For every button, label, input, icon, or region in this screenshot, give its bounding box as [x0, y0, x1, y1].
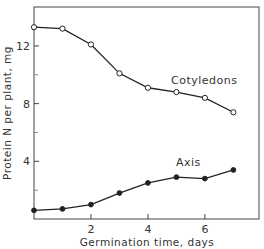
data-point	[89, 202, 94, 207]
x-tick-label: 6	[201, 223, 208, 236]
data-point	[231, 110, 236, 115]
y-axis-label: Protein N per plant, mg	[1, 46, 13, 180]
data-point	[202, 95, 207, 100]
y-axis-ticks: 4812	[16, 40, 39, 190]
data-point	[88, 42, 93, 47]
series-label-cotyledons: Cotyledons	[171, 74, 237, 87]
data-point	[202, 176, 207, 181]
data-point	[60, 26, 65, 31]
data-series	[31, 25, 236, 213]
plot-frame	[34, 7, 259, 219]
data-point	[32, 208, 37, 213]
x-axis-ticks: 246	[87, 214, 208, 236]
y-tick-label: 4	[23, 155, 30, 168]
data-point	[31, 25, 36, 30]
data-point	[146, 181, 151, 186]
y-tick-label: 8	[23, 98, 30, 111]
data-point	[117, 71, 122, 76]
data-point	[60, 207, 65, 212]
x-axis-label: Germination time, days	[80, 236, 215, 248]
data-point	[174, 89, 179, 94]
x-tick-label: 4	[144, 223, 151, 236]
series-line-axis	[34, 170, 233, 210]
data-point	[174, 175, 179, 180]
data-point	[117, 191, 122, 196]
series-label-axis: Axis	[176, 156, 201, 169]
data-point	[231, 168, 236, 173]
line-chart: 4812 246 Cotyledons Axis Protein N per p…	[0, 0, 264, 249]
y-tick-label: 12	[16, 40, 30, 53]
data-point	[145, 85, 150, 90]
x-tick-label: 2	[87, 223, 94, 236]
